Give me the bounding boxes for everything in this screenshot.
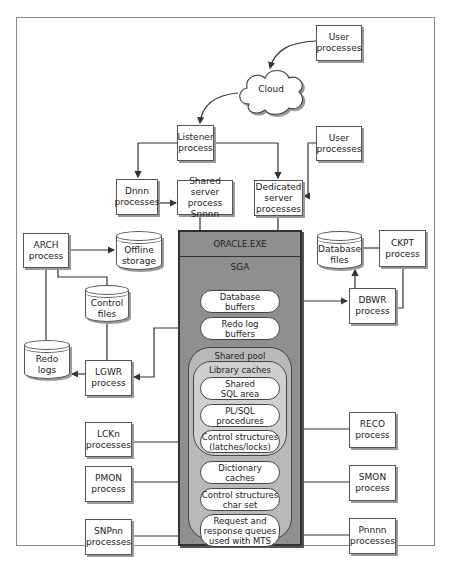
redo-logs-cylinder: Redo logs [24,340,70,379]
dbwr-process-box: DBWR process [349,288,396,324]
control-files-cylinder: Control files [85,285,129,322]
lgwr-process-box: LGWR process [85,360,132,396]
control-structures-char-set: Control structures char set [200,488,280,511]
arch-process-box: ARCH process [23,233,69,268]
database-files-label: Database files [317,243,362,267]
smon-process-box: SMON process [349,465,396,501]
plsql-procedures: PL/SQL procedures [200,404,280,427]
oracle-exe-title: ORACLE.EXE [180,232,300,257]
pmon-process-box: PMON process [85,466,132,502]
dedicated-server-processes-box: Dedicated server processes [254,180,303,216]
lckn-processes-box: LCKn processes [85,422,132,457]
control-structures-latches-locks: Control structures (latches/locks) [200,430,280,453]
database-buffers: Database buffers [200,290,280,313]
library-caches-label: Library caches [194,365,286,375]
user-processes-right-box: User processes [316,126,362,161]
dictionary-caches: Dictionary caches [200,461,280,484]
offline-storage-cylinder: Offline storage [116,231,162,270]
listener-process-box: Listener process [177,125,214,161]
shared-sql-area: Shared SQL area [200,377,280,400]
user-processes-top-box: User processes [316,25,362,61]
request-response-queues: Request and response queues used with MT… [200,514,280,547]
database-files-cylinder: Database files [317,231,362,269]
offline-storage-label: Offline storage [116,243,162,268]
sga-label: SGA [180,262,300,272]
pnnnn-processes-box: Pnnnn processes [349,518,396,554]
shared-pool-label: Shared pool [189,351,291,361]
dnnn-processes-box: Dnnn processes [116,179,158,215]
ckpt-process-box: CKPT process [379,230,426,267]
control-files-label: Control files [85,297,129,320]
snpnn-processes-box: SNPnn processes [85,519,132,555]
redo-logs-label: Redo logs [24,352,70,377]
network-cloud: Cloud [235,66,307,118]
cloud-label: Cloud [235,84,307,94]
redo-log-buffers: Redo log buffers [200,317,280,340]
reco-process-box: RECO process [349,412,396,448]
shared-server-process-box: Shared server process Snnnn [177,180,233,215]
